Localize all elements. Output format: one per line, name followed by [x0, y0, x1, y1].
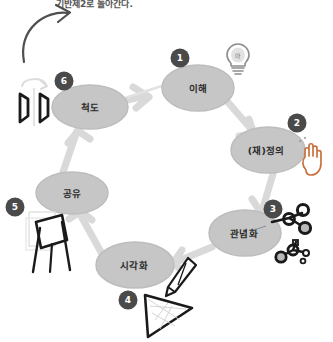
step-node-1[interactable]: 이해	[162, 65, 234, 111]
headline-text: 기반제2로 돌아간다.	[56, 0, 133, 9]
network-nodes-secondary-icon	[276, 240, 309, 263]
step-node-2[interactable]: (재)정의	[231, 127, 305, 173]
calipers-measure-icon	[20, 79, 48, 126]
step-node-6[interactable]: 척도	[52, 85, 128, 129]
step-badge-6[interactable]: 6	[55, 72, 74, 91]
easel-flipchart-icon	[26, 212, 70, 272]
step-node-4[interactable]: 시각화	[96, 242, 174, 288]
step-label-6: 척도	[81, 102, 99, 113]
step-label-3: 관념화	[230, 228, 258, 239]
step-label-4: 시각화	[120, 260, 148, 271]
return-to-start-arrow	[23, 5, 70, 62]
lightbulb-inner-text: 아	[235, 52, 241, 60]
step-number-5: 5	[12, 202, 18, 212]
step-badge-1[interactable]: 1	[171, 49, 190, 68]
step-label-2: (재)정의	[248, 145, 285, 156]
step-badge-3[interactable]: 3	[264, 200, 283, 219]
step-label-1: 이해	[189, 83, 207, 94]
step-badge-2[interactable]: 2	[288, 114, 307, 133]
step-label-5: 공유	[63, 188, 81, 199]
headline-label: 기반제2로 돌아간다.	[56, 0, 133, 9]
step-number-3: 3	[270, 204, 276, 214]
process-cycle-diagram: 기반제2로 돌아간다. 이해 1	[0, 0, 333, 342]
step-badge-5[interactable]: 5	[6, 198, 25, 217]
step-number-2: 2	[294, 118, 300, 128]
step-number-4: 4	[125, 295, 131, 305]
step-node-5[interactable]: 공유	[36, 172, 108, 214]
lightbulb-icon: 아	[227, 44, 249, 74]
step-number-1: 1	[177, 53, 183, 63]
step-badge-4[interactable]: 4	[119, 291, 138, 310]
triangle-chart-icon	[145, 295, 192, 337]
step-number-6: 6	[61, 76, 67, 86]
